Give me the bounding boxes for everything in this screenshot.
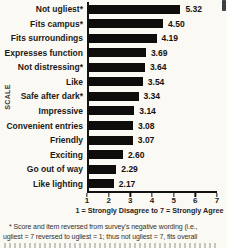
footnote-line-1: * Score and item reversed from survey's … — [3, 222, 225, 232]
bar-track: 3.34 — [87, 89, 225, 104]
footnote-line-2: ugliest = 7 reversed to ugliest = 1; thu… — [3, 232, 225, 242]
value-label: 4.50 — [168, 19, 185, 29]
x-axis-tick-value: 7 — [211, 196, 223, 205]
category-label: Convenient entries — [0, 121, 87, 131]
x-axis-tick-value: 1 — [81, 196, 93, 205]
x-axis-tick-value: 6 — [189, 196, 201, 205]
category-label: Expresses function — [0, 48, 87, 58]
category-label: Go out of way — [0, 164, 87, 174]
category-label: Fits campus* — [0, 19, 87, 29]
bar-track: 3.14 — [87, 104, 225, 119]
bar — [89, 121, 133, 130]
bar — [89, 165, 116, 174]
bar — [89, 179, 114, 188]
value-label: 3.54 — [148, 77, 165, 87]
category-label: Not ugliest* — [0, 4, 87, 14]
value-label: 2.60 — [128, 150, 145, 160]
value-label: 3.34 — [144, 91, 161, 101]
bar-track: 3.54 — [87, 75, 225, 90]
bar-row: Not distressing*3.64 — [0, 60, 227, 75]
value-label: 3.07 — [138, 135, 155, 145]
x-axis-tick-value: 3 — [124, 196, 136, 205]
bar — [89, 34, 157, 43]
bar-row: Exciting2.60 — [0, 147, 227, 162]
bar-track: 2.29 — [87, 162, 225, 177]
scanned-figure-page: SCALE Not ugliest*5.32Fits campus*4.50Fi… — [0, 0, 227, 248]
value-label: 5.32 — [185, 4, 202, 14]
bar-track: 3.07 — [87, 133, 225, 148]
bar — [89, 48, 146, 57]
bar — [89, 92, 139, 101]
category-label: Impressive — [0, 106, 87, 116]
bar — [89, 150, 123, 159]
value-label: 3.14 — [139, 106, 156, 116]
bar-row: Friendly3.07 — [0, 133, 227, 148]
bar-track: 3.08 — [87, 118, 225, 133]
bar-row: Like3.54 — [0, 75, 227, 90]
bar-track: 2.17 — [87, 176, 225, 191]
bar-row: Safe after dark*3.34 — [0, 89, 227, 104]
bar — [89, 136, 133, 145]
bar-row: Fits surroundings4.19 — [0, 31, 227, 46]
bar-rows: Not ugliest*5.32Fits campus*4.50Fits sur… — [0, 2, 227, 191]
bar-row: Convenient entries3.08 — [0, 118, 227, 133]
page-edge-artifact — [222, 0, 226, 11]
bar — [89, 63, 145, 72]
category-label: Like — [0, 77, 87, 87]
bar-row: Not ugliest*5.32 — [0, 2, 227, 17]
bar-row: Like lighting2.17 — [0, 176, 227, 191]
bar — [89, 106, 134, 115]
value-label: 2.29 — [121, 164, 138, 174]
value-label: 3.69 — [151, 48, 168, 58]
bar — [89, 5, 180, 14]
bar-track: 2.60 — [87, 147, 225, 162]
bar-track: 4.50 — [87, 17, 225, 32]
bar — [89, 19, 163, 28]
bar-track: 4.19 — [87, 31, 225, 46]
value-label: 2.17 — [119, 179, 136, 189]
category-label: Not distressing* — [0, 62, 87, 72]
bar-row: Go out of way2.29 — [0, 162, 227, 177]
x-axis-tick-value: 5 — [168, 196, 180, 205]
value-label: 3.08 — [138, 121, 155, 131]
x-axis-label: 1 = Strongly Disagree to 7 = Strongly Ag… — [72, 206, 227, 215]
footnote-clipped-line — [4, 243, 219, 248]
category-label: Friendly — [0, 135, 87, 145]
category-label: Fits surroundings — [0, 33, 87, 43]
footnote: * Score and item reversed from survey's … — [3, 222, 225, 241]
bar-row: Impressive3.14 — [0, 104, 227, 119]
bar-track: 3.64 — [87, 60, 225, 75]
x-axis-tick-value: 2 — [103, 196, 115, 205]
bar-row: Expresses function3.69 — [0, 46, 227, 61]
bar — [89, 77, 143, 86]
category-label: Safe after dark* — [0, 91, 87, 101]
bar-track: 5.32 — [87, 2, 225, 17]
category-label: Exciting — [0, 150, 87, 160]
bar-track: 3.69 — [87, 46, 225, 61]
x-axis-tick-value: 4 — [146, 196, 158, 205]
value-label: 4.19 — [162, 33, 179, 43]
horizontal-bar-chart: Not ugliest*5.32Fits campus*4.50Fits sur… — [0, 2, 227, 191]
x-axis-tick-labels: 1234567 — [87, 196, 217, 205]
value-label: 3.64 — [150, 62, 167, 72]
bar-row: Fits campus*4.50 — [0, 17, 227, 32]
category-label: Like lighting — [0, 179, 87, 189]
